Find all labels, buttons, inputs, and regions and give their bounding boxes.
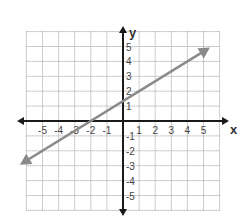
graph-line (27, 52, 202, 160)
x-tick-label: -5 (38, 125, 47, 136)
x-tick-label: -2 (86, 125, 95, 136)
x-axis-right-arrow-icon (222, 117, 229, 125)
y-tick-label: -2 (126, 146, 135, 157)
y-tick-label: 4 (126, 56, 132, 67)
x-axis-label: x (230, 122, 238, 137)
y-tick-label: 1 (126, 101, 132, 112)
x-axis-left-arrow-icon (17, 117, 24, 125)
x-tick-label: 2 (152, 125, 158, 136)
y-tick-label: -1 (126, 131, 135, 142)
x-tick-label: 5 (201, 125, 207, 136)
x-tick-label: -4 (54, 125, 63, 136)
y-tick-label: 5 (126, 42, 132, 53)
y-tick-label: -4 (126, 176, 135, 187)
x-tick-label: 1 (136, 125, 142, 136)
x-tick-label: 3 (169, 125, 175, 136)
y-axis-up-arrow-icon (119, 26, 127, 33)
y-axis-label: y (129, 25, 137, 40)
y-tick-label: 3 (126, 71, 132, 82)
y-tick-label: -5 (126, 191, 135, 202)
coordinate-plane: -5-4-3-2-112345-5-4-3-2-112345 x y (0, 0, 242, 224)
y-tick-label: -3 (126, 161, 135, 172)
x-tick-label: 4 (185, 125, 191, 136)
y-axis-down-arrow-icon (119, 209, 127, 216)
x-tick-label: -1 (102, 125, 111, 136)
